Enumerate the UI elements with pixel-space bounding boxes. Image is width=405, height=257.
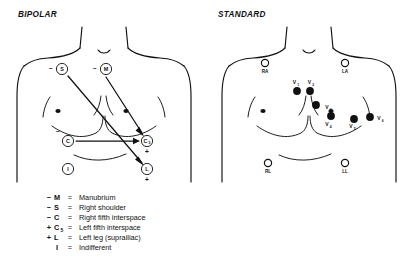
limb-electrode-la-ring[interactable]: [341, 59, 348, 66]
precordial-electrode-v2-dot[interactable]: [306, 87, 314, 95]
vector-c-to-c5-arrowhead: [133, 138, 140, 144]
electrode-l-polarity: +: [145, 176, 149, 183]
limb-electrode-ra-label: RA: [262, 69, 269, 74]
legend-row-3: + C 5 = Left fifth interspace: [47, 223, 141, 233]
electrode-i[interactable]: I: [62, 163, 73, 174]
legend-row-0: − M = Manubrium: [47, 193, 116, 202]
precordial-electrode-v4-subscript: 4: [330, 125, 332, 129]
electrode-c-polarity: −: [56, 128, 60, 135]
precordial-electrode-v2-label: V: [308, 79, 312, 85]
vector-s-to-l-arrowhead: [135, 157, 144, 167]
legend-row-0-equals: =: [68, 193, 72, 202]
electrode-c5-subscript: 5: [149, 141, 151, 145]
precordial-electrode-v1-label: V: [293, 79, 297, 85]
limb-electrode-ra[interactable]: RA: [261, 59, 269, 73]
bipolar-torso-outline: [17, 27, 191, 182]
precordial-electrode-v5-subscript: 5: [354, 127, 356, 131]
legend-row-1-sign: −: [47, 203, 51, 212]
legend-row-2: − C = Right fifth interspace: [47, 213, 146, 222]
precordial-electrode-v2[interactable]: V 2: [306, 79, 314, 95]
precordial-electrode-v1-subscript: 1: [297, 83, 299, 87]
electrode-c5[interactable]: C 5 +: [141, 135, 152, 154]
legend: − M = Manubrium − S = Right shoulder − C…: [47, 193, 146, 252]
legend-row-0-sign: −: [47, 193, 51, 202]
vector-m-to-c5: [106, 77, 142, 133]
legend-row-5-key: I: [56, 243, 58, 252]
legend-row-1-key: S: [54, 203, 59, 212]
legend-row-0-key: M: [54, 193, 60, 202]
precordial-electrode-v5[interactable]: V 5: [349, 115, 358, 131]
limb-electrode-ll-label: LL: [342, 169, 348, 174]
ecg-electrode-placement-figure: BIPOLAR: [0, 0, 405, 257]
legend-row-1-equals: =: [68, 203, 72, 212]
precordial-electrode-v2-subscript: 2: [312, 83, 314, 87]
electrode-c5-polarity: +: [145, 148, 149, 155]
limb-electrode-la[interactable]: LA: [341, 59, 348, 73]
precordial-electrode-v3-subscript: 3: [330, 108, 332, 112]
legend-row-5-description: Indifferent: [79, 243, 111, 252]
legend-row-3-description: Left fifth interspace: [79, 223, 141, 232]
legend-row-3-equals: =: [68, 223, 72, 232]
precordial-electrode-v1-dot[interactable]: [293, 87, 301, 95]
legend-row-3-sign: +: [47, 223, 51, 232]
precordial-electrode-v1[interactable]: V 1: [293, 79, 301, 95]
limb-electrode-rl-label: RL: [265, 169, 271, 174]
electrode-l[interactable]: L +: [141, 163, 152, 182]
standard-torso-outline: [222, 27, 396, 182]
limb-electrode-rl-ring[interactable]: [264, 159, 271, 166]
precordial-electrode-v6-dot[interactable]: [366, 113, 374, 121]
electrode-c5-label: C: [144, 138, 148, 144]
electrode-s-polarity: −: [49, 65, 53, 72]
legend-row-4-description: Left leg (suprailiac): [79, 233, 141, 242]
precordial-electrode-v6-label: V: [377, 115, 381, 121]
legend-row-4: + L = Left leg (suprailiac): [47, 233, 141, 242]
legend-row-1-description: Right shoulder: [79, 203, 127, 212]
legend-row-4-equals: =: [68, 233, 72, 242]
legend-row-1: − S = Right shoulder: [47, 203, 127, 212]
electrode-c[interactable]: − C: [56, 128, 73, 147]
standard-panel: STANDARD RA LA: [218, 10, 396, 182]
legend-row-0-description: Manubrium: [79, 193, 116, 202]
precordial-electrode-v3-dot[interactable]: [312, 101, 320, 109]
precordial-electrode-v3-label: V: [325, 104, 329, 110]
legend-row-2-sign: −: [47, 213, 51, 222]
vector-s-to-l: [68, 76, 142, 163]
electrode-s[interactable]: − S: [49, 63, 67, 74]
limb-electrode-la-label: LA: [342, 69, 349, 74]
precordial-electrode-v4[interactable]: V 4: [325, 112, 335, 129]
legend-row-3-key: C: [54, 223, 60, 232]
legend-row-2-equals: =: [68, 213, 72, 222]
precordial-electrode-v5-label: V: [349, 123, 353, 129]
legend-row-4-key: L: [54, 233, 59, 242]
legend-row-2-description: Right fifth interspace: [79, 213, 146, 222]
electrode-m-label: M: [104, 66, 109, 72]
limb-electrode-ra-ring[interactable]: [261, 59, 268, 66]
precordial-electrode-v4-dot[interactable]: [327, 112, 335, 120]
legend-row-4-sign: +: [47, 233, 51, 242]
precordial-electrode-v4-label: V: [325, 121, 329, 127]
electrode-s-label: S: [60, 66, 64, 72]
bipolar-panel: BIPOLAR: [17, 10, 191, 183]
precordial-electrode-v6-subscript: 6: [382, 119, 384, 123]
legend-row-3-subscript: 5: [61, 227, 64, 233]
legend-row-2-key: C: [54, 213, 60, 222]
limb-electrode-rl[interactable]: RL: [264, 159, 271, 173]
limb-electrode-ll[interactable]: LL: [341, 159, 348, 173]
electrode-m-polarity: −: [93, 65, 97, 72]
legend-row-5: I = Indifferent: [56, 243, 111, 252]
precordial-electrode-v6[interactable]: V 6: [366, 113, 384, 123]
bipolar-vector-group: [68, 76, 144, 166]
bipolar-panel-title: BIPOLAR: [18, 10, 57, 19]
limb-electrode-ll-ring[interactable]: [341, 159, 348, 166]
nipple-marker-right-standard: [260, 109, 265, 113]
electrode-m[interactable]: − M: [93, 63, 111, 74]
legend-row-5-equals: =: [68, 243, 72, 252]
nipple-marker-right: [55, 109, 60, 113]
standard-panel-title: STANDARD: [218, 10, 266, 19]
precordial-electrode-v5-dot[interactable]: [350, 115, 358, 123]
electrode-c-label: C: [66, 138, 70, 144]
